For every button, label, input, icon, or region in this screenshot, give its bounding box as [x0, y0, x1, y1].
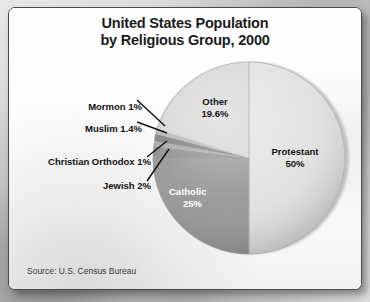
- chart-title: United States Population by Religious Gr…: [9, 15, 361, 49]
- pie-callout-muslim: Muslim 1.4%: [27, 123, 142, 134]
- pie-callout-jewish: Jewish 2%: [57, 180, 151, 191]
- pie-label-other-name: Other: [202, 96, 227, 107]
- chart-title-line2: by Religious Group, 2000: [9, 32, 361, 49]
- pie-label-protestant-value: 50%: [259, 158, 331, 170]
- pie-chart: Other 19.6% Protestant 50% Catholic 25% …: [9, 8, 361, 289]
- chart-image: United States Population by Religious Gr…: [0, 0, 370, 302]
- pie-label-other: Other 19.6%: [182, 96, 248, 120]
- pie-callout-christian-orthodox: Christian Orthodox 1%: [17, 156, 151, 167]
- pie-callout-mormon: Mormon 1%: [39, 101, 142, 112]
- pie-label-protestant-name: Protestant: [272, 146, 319, 157]
- pie-label-protestant: Protestant 50%: [259, 146, 331, 170]
- chart-title-line1: United States Population: [102, 15, 269, 31]
- pie-label-catholic-name: Catholic: [169, 186, 206, 197]
- chart-card: United States Population by Religious Gr…: [8, 7, 362, 290]
- pie-label-catholic: Catholic 25%: [169, 186, 235, 210]
- source-note: Source: U.S. Census Bureau: [27, 266, 136, 276]
- pie-label-catholic-value: 25%: [169, 198, 235, 210]
- pie-label-other-value: 19.6%: [182, 108, 248, 120]
